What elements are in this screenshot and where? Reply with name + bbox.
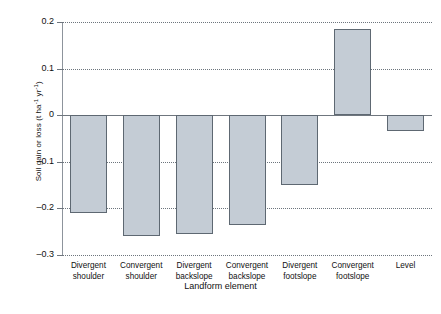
x-tick-label-level: Level: [372, 261, 439, 272]
bar-divergent-backslope[interactable]: [176, 115, 213, 234]
y-tick-mark: [57, 208, 63, 209]
gridline-0.2: [62, 22, 432, 23]
bar-convergent-shoulder[interactable]: [123, 115, 160, 236]
y-tick-mark: [57, 22, 63, 23]
x-axis-label: Landform element: [0, 281, 441, 291]
y-axis-label-sup2: -1: [33, 84, 39, 90]
bar-level[interactable]: [387, 115, 424, 131]
x-tick-line: Level: [372, 261, 439, 272]
y-axis-label-close: ): [34, 81, 43, 84]
gridline-0.1: [62, 69, 432, 70]
y-tick-mark: [57, 115, 63, 116]
soil-gain-loss-bar-chart: Soil gain or loss (t ha-1 yr-1) 0.20.10–…: [0, 0, 441, 314]
bar-divergent-shoulder[interactable]: [70, 115, 107, 213]
gridline--0.3: [62, 255, 432, 256]
y-axis-label-mid: yr: [34, 90, 43, 99]
bar-convergent-footslope[interactable]: [334, 29, 371, 115]
plot-area: [62, 22, 432, 255]
y-tick-label: 0: [20, 109, 54, 119]
y-tick-label: –0.1: [20, 156, 54, 166]
y-tick-label: –0.2: [20, 202, 54, 212]
y-tick-mark: [57, 69, 63, 70]
y-tick-mark: [57, 162, 63, 163]
y-tick-label: –0.3: [20, 249, 54, 259]
bar-divergent-footslope[interactable]: [281, 115, 318, 185]
y-tick-mark: [57, 255, 63, 256]
bar-convergent-backslope[interactable]: [229, 115, 266, 225]
y-axis-label-sup1: -1: [33, 99, 39, 105]
y-tick-label: 0.1: [20, 63, 54, 73]
y-axis-line: [62, 22, 63, 255]
y-tick-label: 0.2: [20, 16, 54, 26]
